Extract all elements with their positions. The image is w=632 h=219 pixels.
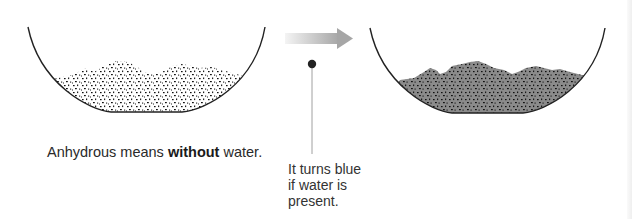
note-line-1: It turns blue bbox=[288, 161, 388, 177]
note-line-2: if water is bbox=[288, 177, 388, 193]
color-change-note: It turns blue if water is present. bbox=[288, 161, 388, 209]
anhydrous-caption: Anhydrous means without water. bbox=[47, 144, 262, 160]
caption-text-before: Anhydrous means bbox=[47, 144, 168, 160]
caption-bold-word: without bbox=[168, 144, 220, 160]
caption-text-after: water. bbox=[219, 144, 262, 160]
arrow-icon bbox=[285, 28, 353, 49]
note-line-3: present. bbox=[288, 193, 388, 209]
pointer-line bbox=[308, 60, 316, 154]
page-edge bbox=[627, 0, 632, 219]
